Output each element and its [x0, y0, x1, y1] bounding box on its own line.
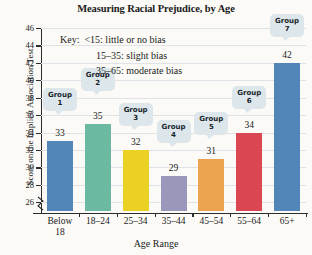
callout-group-word: Group — [48, 91, 72, 99]
key-entry-1: 15–35: slight bias — [96, 50, 167, 61]
callout-group-word: Group — [237, 89, 261, 97]
y-tick-label: 26 — [14, 198, 34, 207]
y-tick-label: 46 — [14, 24, 34, 33]
bar[interactable] — [47, 141, 73, 211]
callout-tail — [130, 124, 141, 130]
y-tick-label: 44 — [14, 41, 34, 50]
x-tick-label: 65+ — [263, 216, 311, 227]
key-entry-2: 35–65: moderate bias — [96, 65, 182, 76]
callout-group-number: 4 — [171, 131, 176, 139]
callout-group-word: Group — [275, 17, 299, 25]
callout-group-word: Group — [124, 106, 148, 114]
y-tick-label: 28 — [14, 181, 34, 190]
gridline — [41, 28, 306, 29]
callout-group-number: 7 — [285, 25, 290, 33]
y-tick-label: 36 — [14, 111, 34, 120]
group-callout: Group7 — [270, 14, 304, 37]
gridline — [41, 98, 306, 99]
key-row: Key:<15: little or no bias — [60, 32, 270, 48]
bar-value-label: 34 — [229, 120, 269, 130]
y-tick-label: 34 — [14, 129, 34, 138]
bar-value-label: 35 — [78, 111, 118, 121]
bar[interactable] — [236, 133, 262, 211]
bar[interactable] — [85, 124, 111, 211]
chart-figure: Measuring Racial Prejudice, by Age Score… — [0, 0, 312, 255]
bar-value-label: 33 — [40, 128, 80, 138]
callout-tail — [92, 89, 103, 95]
bar[interactable] — [123, 150, 149, 211]
callout-group-word: Group — [161, 123, 185, 131]
y-tick-label: 38 — [14, 94, 34, 103]
y-tick-label: 40 — [14, 76, 34, 85]
bar[interactable] — [161, 176, 187, 211]
callout-group-number: 6 — [247, 97, 252, 105]
bar-value-label: 31 — [191, 146, 231, 156]
callout-group-word: Group — [199, 115, 223, 123]
callout-tail — [281, 35, 292, 41]
bar-value-label: 29 — [154, 163, 194, 173]
callout-group-number: 2 — [95, 79, 100, 87]
bar[interactable] — [198, 159, 224, 211]
group-callout: Group1 — [43, 88, 77, 111]
group-callout: Group6 — [232, 86, 266, 109]
group-callout: Group3 — [119, 103, 153, 126]
key-title: Key: — [60, 34, 79, 45]
callout-tail — [205, 133, 216, 139]
bar-value-label: 42 — [267, 50, 307, 60]
key-row: 35–65: moderate bias — [60, 63, 270, 79]
callout-tail — [168, 141, 179, 147]
callout-group-number: 5 — [209, 123, 214, 131]
gridline — [41, 150, 306, 151]
y-tick-label: 30 — [14, 163, 34, 172]
callout-tail — [54, 109, 65, 115]
bar[interactable] — [274, 63, 300, 211]
group-callout: Group4 — [157, 120, 191, 143]
bar-value-label: 32 — [116, 137, 156, 147]
x-axis-title: Age Range — [0, 238, 312, 249]
chart-title: Measuring Racial Prejudice, by Age — [0, 3, 312, 14]
y-tick-label: 42 — [14, 59, 34, 68]
key-entry-0: <15: little or no bias — [84, 34, 165, 45]
y-tick-label: 32 — [14, 146, 34, 155]
callout-group-number: 1 — [57, 99, 62, 107]
chart-key: Key:<15: little or no bias 15–35: slight… — [60, 32, 270, 79]
x-axis-line — [33, 213, 308, 214]
callout-group-number: 3 — [133, 114, 138, 122]
callout-tail — [243, 107, 254, 113]
group-callout: Group5 — [194, 112, 228, 135]
key-row: 15–35: slight bias — [60, 48, 270, 64]
